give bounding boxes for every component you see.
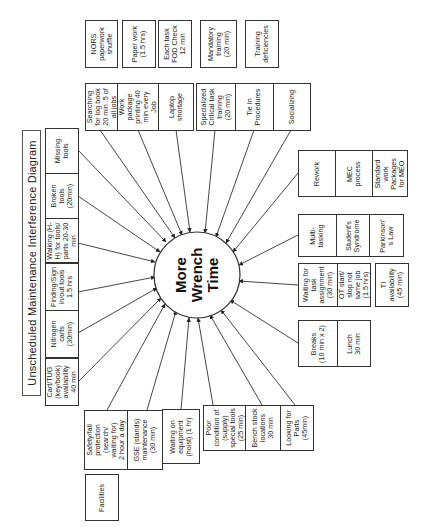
box-gse-maintenance: GSE (stands) maintenance (30 min) — [127, 410, 163, 470]
box-breaks: Breaks (10 min x 2) — [298, 320, 338, 367]
box-nors-paperwork: NORS paperwork shuffle — [85, 20, 118, 68]
box-multi-tasking: Multi- tasking — [298, 214, 337, 257]
box-searching-log-book: Searching for log book 20 min .5 of all … — [85, 83, 118, 131]
box-mec-process: MEC process — [335, 150, 373, 197]
box-nitrogen-carts: Nitrogen carts (30min) — [45, 310, 79, 358]
box-tie-in-procedures: Tie In Procedures — [235, 83, 274, 131]
center-text: More Wrench Time — [173, 248, 221, 303]
box-broken-tools: Broken tools (20min) — [45, 173, 79, 219]
box-lunch: Lunch 30 min — [337, 320, 371, 367]
box-paper-work: Paper work (1.5 hrs) — [122, 20, 156, 68]
box-standard-work-packages: Standard work Packages for MEO — [372, 150, 408, 197]
box-each-task-fod-check: Each task FOD Check 12 min — [158, 20, 192, 68]
box-finding-sign-tools: Finding/Sign in/out tools 1.5 hrs — [45, 262, 79, 311]
box-students-syndrome: Student's Syndrome — [336, 214, 370, 257]
box-poor-condition-special-tools: Poor condition of (supply) special tools… — [203, 405, 246, 451]
box-training-deficiencies: Training deficiencies — [245, 20, 279, 68]
box-bench-stock: Bench stock locations 30 min — [245, 405, 281, 451]
center-label: More Wrench Time — [154, 232, 240, 318]
box-cart-tug: Cart/TUG (key/book) availability 40 min — [45, 357, 79, 406]
box-facilities: Facilities — [85, 474, 119, 521]
box-rework: Rework — [298, 150, 336, 197]
box-safety-fall-protection: Safety/fall protection (search/ waiting … — [84, 410, 128, 470]
box-looking-for-parts: Looking for Parts (45min) — [280, 405, 314, 451]
box-parkinsons-law: Parkinson' s Law — [369, 214, 404, 257]
box-socializing: Socializing — [273, 83, 311, 131]
box-walking-for-tools: Walking (H- H) for tools/ parts 20-30 mi… — [45, 218, 79, 263]
box-specialized-critical-training: Specialized Critical task training (20 m… — [196, 83, 236, 131]
box-ot-start-stop: OT start/ stop not same job (1.5 hrs) — [337, 263, 371, 307]
box-missing-tools: Missing tools — [45, 128, 79, 174]
box-ti-availability: TI availability (45 min) — [375, 263, 409, 307]
box-laptop-shortage: Laptop shortage — [158, 83, 194, 131]
box-waiting-task-assignment: Waiting for task assignment (30 min) — [298, 263, 338, 307]
box-work-package-printing: Work package printing 40 min every Job — [117, 83, 159, 131]
box-mandatory-training: Mandatory training (20 min) — [200, 20, 237, 68]
box-waiting-on-equipment: Waiting on equipment (hoist) (1 hr) — [162, 409, 200, 464]
